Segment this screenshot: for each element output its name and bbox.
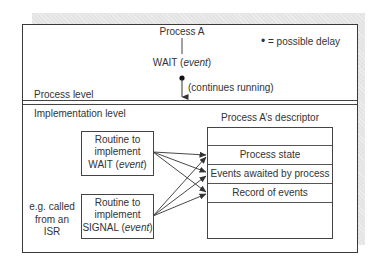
legend-text: = possible delay [268,36,340,47]
routine-signal-name: SIGNAL [82,222,118,233]
descriptor-row-blank-bottom [208,202,332,238]
descriptor-title: Process A’s descriptor [207,112,333,124]
descriptor-row-record-of-events: Record of events [208,183,332,202]
descriptor-row-process-state: Process state [208,145,332,164]
routine-signal-arg: event [125,222,149,233]
legend: • = possible delay [261,35,340,48]
routine-wait-name: WAIT [88,159,112,170]
wait-call-arg: event [183,57,207,68]
routine-signal-line3: SIGNAL (event) [82,222,153,235]
routine-signal: Routine to implement SIGNAL (event) [81,194,154,239]
implementation-level-label: Implementation level [34,108,126,120]
level-separator-bottom [23,104,357,105]
routine-wait-line1: Routine to [82,134,153,147]
routine-signal-line1: Routine to [82,197,153,210]
routine-wait-line3: WAIT (event) [82,159,153,172]
arrow-signal-to-awaited [153,176,206,216]
wait-call: WAIT (event) [140,57,224,69]
routine-signal-line2: implement [82,209,153,222]
process-descriptor: Process state Events awaited by process … [207,127,333,239]
legend-dot-icon: • [261,34,265,48]
isr-note-line1: e.g. called [26,201,78,214]
wait-call-name: WAIT [153,57,177,68]
descriptor-row-events-awaited: Events awaited by process [208,164,332,183]
descriptor-row-blank-top [208,127,332,145]
isr-note: e.g. called from an ISR [26,201,78,239]
isr-note-line3: ISR [26,226,78,239]
arrow-signal-to-record [153,194,206,216]
level-separator-top [23,100,357,101]
routine-wait-line2: implement [82,146,153,159]
continues-label: (continues running) [188,82,274,94]
isr-note-line2: from an [26,214,78,227]
process-title: Process A [142,26,222,38]
routine-wait-arg: event [119,159,143,170]
routine-wait: Routine to implement WAIT (event) [81,131,154,176]
